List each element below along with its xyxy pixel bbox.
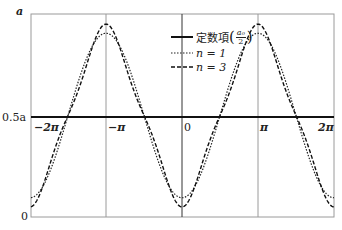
legend-label-constant: 定数項	[196, 29, 229, 45]
legend-label-n3: n = 3	[196, 61, 226, 74]
x-label-minus-2pi: −2π	[34, 122, 59, 133]
x-label-pi: π	[260, 122, 268, 133]
x-label-zero: 0	[184, 122, 191, 133]
legend-item-constant: 定数項 ( a₀ 2 )	[171, 28, 253, 46]
y-label-zero: 0	[21, 211, 28, 222]
legend-item-n3: n = 3	[171, 60, 253, 74]
x-label-2pi: 2π	[318, 122, 334, 133]
dotted-line-icon	[171, 50, 193, 56]
fraction-a0-over-2: a₀ 2	[236, 29, 246, 46]
x-label-minus-pi: −π	[108, 122, 125, 133]
y-label-a: a	[16, 6, 23, 17]
y-label-half-a: 0.5a	[2, 112, 26, 123]
solid-line-icon	[171, 34, 193, 40]
legend-label-n1: n = 1	[196, 47, 226, 60]
legend: 定数項 ( a₀ 2 ) n = 1 n = 3	[171, 28, 253, 74]
legend-item-n1: n = 1	[171, 46, 253, 60]
dashed-line-icon	[171, 64, 193, 70]
